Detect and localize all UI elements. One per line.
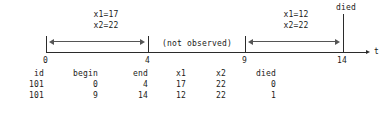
cell-end: 4 <box>98 79 148 90</box>
cell-id: 101 <box>0 79 44 90</box>
tick-mark-4 <box>148 36 149 53</box>
cell-died: 0 <box>226 79 276 90</box>
table-row: 101 9 14 12 22 1 <box>0 90 276 101</box>
arrow-right-icon <box>335 39 340 45</box>
cell-x2: 22 <box>186 90 226 101</box>
survival-timeline-figure: x1=17 x2=22 x1=12 x2=22 died t 0 4 9 14 … <box>0 0 383 113</box>
tick-label-9: 9 <box>242 56 247 66</box>
interval-2-annotation-x1: x1=12 <box>283 10 308 20</box>
time-axis-label: t <box>374 47 379 57</box>
column-header-x1: x1 <box>148 68 186 79</box>
interval-2-annotation-x2: x2=22 <box>283 21 308 31</box>
tick-mark-9 <box>245 36 246 53</box>
cell-end: 14 <box>98 90 148 101</box>
time-axis-line <box>46 52 368 53</box>
cell-died: 1 <box>226 90 276 101</box>
interval-2-span-arrow <box>248 37 340 46</box>
table-row: 101 0 4 17 22 0 <box>0 79 276 90</box>
data-table: id begin end x1 x2 died 101 0 4 17 22 0 <box>0 68 276 101</box>
cell-id: 101 <box>0 90 44 101</box>
column-header-id: id <box>0 68 44 79</box>
tick-label-14: 14 <box>337 56 347 66</box>
time-axis-arrowhead-icon <box>366 50 370 54</box>
data-table-wrapper: id begin end x1 x2 died 101 0 4 17 22 0 <box>0 68 383 101</box>
column-header-x2: x2 <box>186 68 226 79</box>
interval-1-span-arrow <box>49 37 145 46</box>
arrow-right-icon <box>140 39 145 45</box>
cell-begin: 0 <box>44 79 98 90</box>
cell-x1: 17 <box>148 79 186 90</box>
tick-label-4: 4 <box>145 56 150 66</box>
table-header-row: id begin end x1 x2 died <box>0 68 276 79</box>
cell-begin: 9 <box>44 90 98 101</box>
died-label: died <box>336 3 356 13</box>
interval-1-annotation-x2: x2=22 <box>93 21 118 31</box>
arrow-shaft <box>252 41 336 42</box>
column-header-died: died <box>226 68 276 79</box>
tick-mark-0 <box>46 36 47 53</box>
column-header-end: end <box>98 68 148 79</box>
cell-x2: 22 <box>186 79 226 90</box>
tick-label-0: 0 <box>43 56 48 66</box>
not-observed-label: (not observed) <box>162 39 232 49</box>
tick-mark-14 <box>343 36 344 53</box>
cell-x1: 12 <box>148 90 186 101</box>
interval-1-annotation-x1: x1=17 <box>93 10 118 20</box>
column-header-begin: begin <box>44 68 98 79</box>
arrow-shaft <box>53 41 141 42</box>
